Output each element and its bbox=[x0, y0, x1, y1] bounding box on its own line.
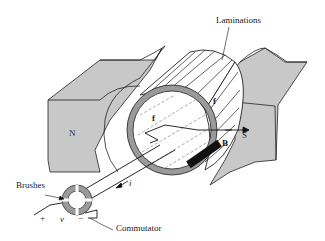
force-right-label: f bbox=[213, 96, 216, 106]
field-b-label: B bbox=[222, 138, 228, 148]
voltage-label: v bbox=[60, 214, 64, 224]
dc-machine-diagram bbox=[0, 0, 325, 241]
brushes-label: Brushes bbox=[16, 180, 45, 190]
commutator-label: Commutator bbox=[116, 223, 162, 233]
plus-terminal-label: + bbox=[40, 213, 45, 223]
north-pole-piece bbox=[48, 46, 165, 172]
laminations-label: Laminations bbox=[216, 15, 261, 25]
commutator bbox=[62, 185, 92, 215]
south-pole-label: S bbox=[242, 130, 247, 140]
minus-terminal-label: − bbox=[78, 213, 83, 223]
current-label: i bbox=[129, 178, 132, 188]
current-arrow bbox=[116, 181, 128, 188]
north-pole-label: N bbox=[69, 128, 76, 138]
force-left-label: f bbox=[152, 113, 155, 123]
